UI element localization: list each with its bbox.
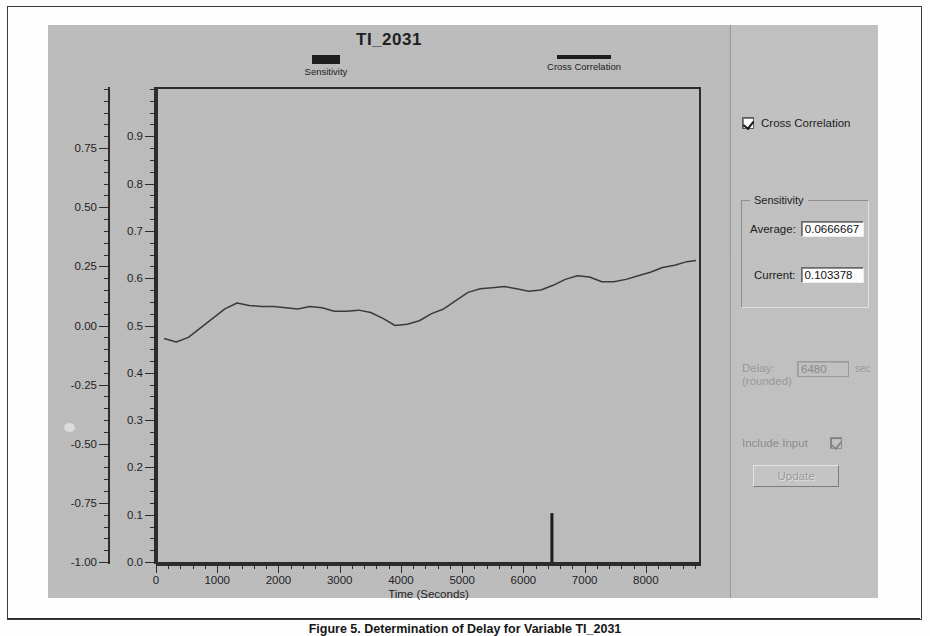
delay-value-field[interactable]: 6480: [797, 361, 849, 377]
y-axis-tick-label: 0.8: [127, 178, 143, 190]
scanned-page: TI_2031 Sensitivity Cross Correlation 0.…: [0, 0, 930, 636]
y-axis-tick-label: 0.00: [75, 320, 97, 332]
y-axis-tick-label: 0.5: [127, 320, 143, 332]
legend-label-sensitivity: Sensitivity: [281, 66, 371, 77]
x-axis-major-tick: [523, 564, 524, 573]
y-axis-major-tick: [145, 136, 156, 137]
x-axis-tick-label: 3000: [327, 574, 353, 586]
y-axis-tick-label: -0.25: [71, 379, 97, 391]
x-axis-minor-tick: [180, 564, 181, 569]
y-axis-tick-label: 0.2: [127, 461, 143, 473]
check-icon: [743, 118, 755, 130]
plot-area: [158, 89, 699, 562]
y-axis-major-tick: [99, 266, 110, 267]
x-axis-tick-label: 5000: [449, 574, 475, 586]
x-axis-tick-label: 4000: [388, 574, 414, 586]
x-axis-minor-tick: [634, 564, 635, 569]
x-axis-minor-tick: [266, 564, 267, 569]
update-button[interactable]: Update: [753, 465, 839, 487]
average-label: Average:: [750, 223, 796, 235]
x-axis-minor-tick: [560, 564, 561, 569]
x-axis-minor-tick: [389, 564, 390, 569]
x-axis-minor-tick: [474, 564, 475, 569]
y-axis-major-tick: [145, 184, 156, 185]
y-axis-major-tick: [99, 148, 110, 149]
y-axis-tick-label: -0.75: [71, 497, 97, 509]
delay-label: Delay: (rounded): [742, 362, 792, 388]
delay-label-line2: (rounded): [742, 375, 792, 388]
y-axis-major-tick: [99, 326, 110, 327]
application-window: TI_2031 Sensitivity Cross Correlation 0.…: [48, 25, 878, 598]
x-axis-minor-tick: [254, 564, 255, 569]
x-axis-major-tick: [585, 564, 586, 573]
y-axis-tick-label: 0.25: [75, 260, 97, 272]
x-axis-tick-label: 6000: [511, 574, 537, 586]
x-axis-minor-tick: [511, 564, 512, 569]
y-axis-tick-label: 0.4: [127, 367, 143, 379]
delay-label-line1: Delay:: [742, 362, 792, 375]
y-axis-major-tick: [145, 278, 156, 279]
x-axis-minor-tick: [425, 564, 426, 569]
y-axis-tick-label: 0.1: [127, 509, 143, 521]
plot-svg: [158, 89, 699, 562]
x-axis-major-tick: [401, 564, 402, 573]
average-value-field[interactable]: 0.0666667: [801, 221, 864, 237]
y-axis-major-tick: [145, 326, 156, 327]
x-axis-minor-tick: [450, 564, 451, 569]
y-axis-tick-label: 0.7: [127, 225, 143, 237]
legend-swatch-cross-correlation: [557, 55, 611, 59]
series-line-cross-correlation: [164, 260, 696, 342]
x-axis-minor-tick: [352, 564, 353, 569]
y-axis-major-tick: [99, 444, 110, 445]
y-axis-major-tick: [145, 420, 156, 421]
legend-label-cross-correlation: Cross Correlation: [524, 61, 644, 72]
legend-item-sensitivity: Sensitivity: [281, 55, 371, 77]
include-input-checkbox[interactable]: [830, 437, 842, 449]
x-axis-major-tick: [217, 564, 218, 573]
cross-correlation-checkbox-row[interactable]: Cross Correlation: [742, 117, 850, 129]
x-axis-minor-tick: [499, 564, 500, 569]
x-axis-spine: [156, 564, 701, 566]
x-axis: Time (Seconds) 0100020003000400050006000…: [156, 564, 701, 598]
y-axis-tick-label: 0.75: [75, 142, 97, 154]
x-axis-major-tick: [340, 564, 341, 573]
x-axis-minor-tick: [193, 564, 194, 569]
x-axis-tick-label: 0: [153, 574, 159, 586]
x-axis-tick-label: 1000: [204, 574, 230, 586]
x-axis-minor-tick: [548, 564, 549, 569]
y-axis-major-tick: [145, 562, 156, 563]
x-axis-minor-tick: [572, 564, 573, 569]
current-field-row: Current: 0.103378: [754, 267, 864, 283]
legend-swatch-sensitivity: [312, 55, 340, 64]
x-axis-minor-tick: [536, 564, 537, 569]
x-axis-minor-tick: [658, 564, 659, 569]
current-value-field[interactable]: 0.103378: [801, 267, 864, 283]
x-axis-minor-tick: [364, 564, 365, 569]
current-label: Current:: [754, 269, 796, 281]
x-axis-minor-tick: [291, 564, 292, 569]
y-axis-tick-label: 0.0: [127, 556, 143, 568]
y-axis-sensitivity: 0.90.80.70.60.50.40.30.20.10.0: [110, 87, 156, 564]
check-icon: [831, 438, 843, 450]
delay-unit-label: sec: [855, 363, 871, 374]
cross-correlation-checkbox[interactable]: [742, 117, 754, 129]
x-axis-minor-tick: [597, 564, 598, 569]
average-field-row: Average: 0.0666667: [750, 221, 864, 237]
x-axis-minor-tick: [695, 564, 696, 569]
sensitivity-group-box: Sensitivity Average: 0.0666667 Current: …: [741, 200, 869, 308]
include-input-label: Include Input: [742, 437, 808, 449]
y-axis-tick-label: 0.50: [75, 201, 97, 213]
y-axis-major-tick: [145, 467, 156, 468]
cross-correlation-label: Cross Correlation: [761, 117, 850, 129]
y-axis-tick-label: 0.3: [127, 414, 143, 426]
x-axis-minor-tick: [168, 564, 169, 569]
y-axis-tick-label: -1.00: [71, 556, 97, 568]
y-axis-major-tick: [145, 373, 156, 374]
y-axis-major-tick: [99, 385, 110, 386]
x-axis-tick-label: 8000: [633, 574, 659, 586]
y-axis-cross-correlation: 0.750.500.250.00-0.25-0.50-0.75-1.00: [64, 87, 110, 564]
y-axis-major-tick: [145, 515, 156, 516]
y-axis-major-tick: [145, 231, 156, 232]
x-axis-minor-tick: [242, 564, 243, 569]
include-input-checkbox-row[interactable]: Include Input: [742, 437, 842, 449]
